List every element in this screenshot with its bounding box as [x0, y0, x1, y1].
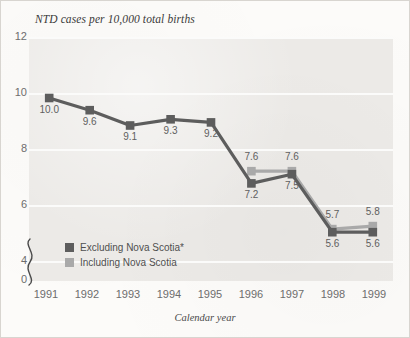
legend-item-label: Including Nova Scotia: [80, 257, 177, 268]
data-point-label: 7.6: [275, 151, 309, 162]
x-tick-label: 1994: [147, 288, 191, 300]
legend-swatch-icon: [65, 243, 74, 252]
data-point-label: 7.2: [234, 189, 268, 200]
legend-swatch-icon: [65, 258, 74, 267]
data-point-label: 5.6: [315, 238, 349, 249]
data-point-label: 5.6: [356, 238, 390, 249]
x-tick-label: 1995: [188, 288, 232, 300]
x-axis-title: Calendar year: [1, 312, 409, 323]
data-point-label: 9.3: [154, 125, 188, 136]
x-tick-label: 1992: [65, 288, 109, 300]
legend-item-label: Excluding Nova Scotia*: [80, 242, 184, 253]
data-point-label: 9.2: [194, 128, 228, 139]
legend: Excluding Nova Scotia* Including Nova Sc…: [65, 242, 184, 268]
legend-item-excluding-nova-scotia[interactable]: Excluding Nova Scotia*: [65, 242, 184, 253]
x-tick-label: 1997: [270, 288, 314, 300]
x-tick-label: 1991: [24, 288, 68, 300]
data-point-label: 9.6: [73, 116, 107, 127]
data-point-label: 7.6: [234, 151, 268, 162]
x-tick-label: 1999: [352, 288, 396, 300]
x-tick-label: 1998: [311, 288, 355, 300]
data-point-label: 10.0: [32, 104, 66, 115]
data-point-label: 5.7: [315, 209, 349, 220]
legend-item-including-nova-scotia[interactable]: Including Nova Scotia: [65, 257, 184, 268]
data-point-label: 9.1: [113, 131, 147, 142]
figure-frame: NTD cases per 10,000 total births 12 10 …: [0, 0, 410, 338]
x-tick-label: 1996: [229, 288, 273, 300]
x-tick-label: 1993: [106, 288, 150, 300]
data-point-label: 7.5: [275, 180, 309, 191]
data-point-label: 5.8: [356, 206, 390, 217]
